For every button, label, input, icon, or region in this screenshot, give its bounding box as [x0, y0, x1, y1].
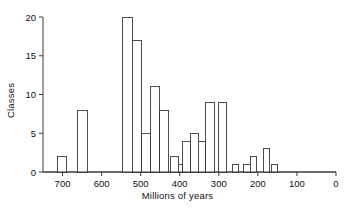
histogram-figure: 700600500400300200100005101520 Classes M…: [0, 0, 355, 215]
y-axis-tick-label: 10: [25, 89, 36, 100]
histogram-bar: [250, 157, 256, 173]
histogram-bar: [219, 102, 226, 172]
histogram-bar: [263, 149, 269, 172]
x-axis-tick-label: 100: [289, 178, 305, 189]
histogram-bar: [244, 164, 251, 172]
histogram-bar: [271, 164, 277, 172]
histogram-bar: [178, 164, 183, 172]
x-axis-tick-label: 700: [55, 178, 71, 189]
y-axis-tick-label: 5: [31, 128, 36, 139]
x-axis-tick-label: 400: [172, 178, 188, 189]
y-axis-tick-label: 0: [31, 167, 36, 178]
histogram-bar: [122, 17, 132, 172]
x-axis-tick-label: 600: [94, 178, 110, 189]
histogram-bar: [198, 141, 205, 172]
histogram-bar: [206, 102, 215, 172]
histogram-bar: [232, 164, 238, 172]
histogram-bar: [170, 157, 178, 173]
x-axis-tick-label: 0: [333, 178, 338, 189]
histogram-plot-area: 700600500400300200100005101520: [0, 0, 355, 215]
histogram-bar: [183, 141, 191, 172]
histogram-bar: [151, 87, 160, 172]
histogram-bar: [77, 110, 87, 172]
y-axis-title: Classes: [5, 71, 16, 131]
histogram-bar: [58, 157, 67, 173]
bar-group: [58, 17, 278, 172]
x-axis-title: Millions of years: [0, 190, 355, 201]
y-axis-tick-label: 20: [25, 12, 36, 23]
x-axis-tick-label: 500: [133, 178, 149, 189]
histogram-bar: [132, 40, 142, 172]
y-axis-tick-label: 15: [25, 50, 36, 61]
histogram-bar: [142, 133, 151, 172]
x-axis-tick-label: 200: [250, 178, 266, 189]
x-axis-tick-label: 300: [211, 178, 227, 189]
histogram-bar: [191, 133, 199, 172]
histogram-bar: [160, 110, 169, 172]
